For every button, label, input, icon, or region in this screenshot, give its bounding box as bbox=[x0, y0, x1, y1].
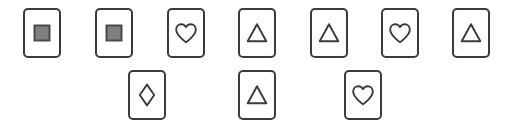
card-filled-square[interactable] bbox=[95, 8, 133, 58]
filled-square-icon bbox=[101, 20, 127, 46]
card-slot-r1c6[interactable] bbox=[381, 8, 419, 58]
card-triangle[interactable] bbox=[238, 70, 276, 120]
card-slot-r1c4[interactable] bbox=[238, 8, 276, 58]
heart-icon bbox=[387, 20, 413, 46]
triangle-icon bbox=[458, 20, 484, 46]
card-slot-r1c2[interactable] bbox=[95, 8, 133, 58]
card-slot-r1c3[interactable] bbox=[167, 8, 205, 58]
card-row-2 bbox=[0, 70, 506, 122]
card-triangle[interactable] bbox=[452, 8, 490, 58]
card-slot-r2c4 bbox=[200, 70, 238, 120]
card-slot-r2c3[interactable] bbox=[128, 70, 166, 120]
card-slot-r2c1 bbox=[23, 70, 61, 120]
card-triangle[interactable] bbox=[310, 8, 348, 58]
triangle-icon bbox=[244, 82, 270, 108]
card-diamond[interactable] bbox=[128, 70, 166, 120]
card-row-1 bbox=[0, 8, 506, 60]
card-slot-r2c5[interactable] bbox=[238, 70, 276, 120]
card-heart[interactable] bbox=[344, 70, 382, 120]
heart-icon bbox=[350, 82, 376, 108]
card-filled-square[interactable] bbox=[23, 8, 61, 58]
card-triangle[interactable] bbox=[238, 8, 276, 58]
card-slot-r1c5[interactable] bbox=[310, 8, 348, 58]
triangle-icon bbox=[316, 20, 342, 46]
card-slot-r2c7 bbox=[452, 70, 490, 120]
filled-square-icon bbox=[29, 20, 55, 46]
card-board bbox=[0, 0, 506, 130]
card-heart[interactable] bbox=[381, 8, 419, 58]
card-slot-r2c6[interactable] bbox=[344, 70, 382, 120]
triangle-icon bbox=[244, 20, 270, 46]
card-slot-r1c1[interactable] bbox=[23, 8, 61, 58]
heart-icon bbox=[173, 20, 199, 46]
card-slot-r1c7[interactable] bbox=[452, 8, 490, 58]
diamond-icon bbox=[134, 82, 160, 108]
card-heart[interactable] bbox=[167, 8, 205, 58]
